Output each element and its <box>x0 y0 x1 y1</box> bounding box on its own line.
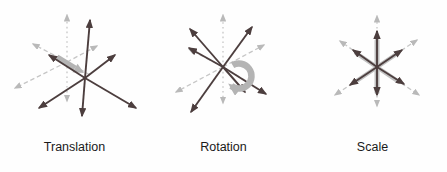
transformed-axes-star <box>189 27 266 112</box>
scale-label: Scale <box>357 140 388 154</box>
translation-figure <box>0 0 149 133</box>
panel-translation: Translation <box>0 0 149 172</box>
rotation-figure <box>149 0 298 133</box>
rotation-label: Rotation <box>200 140 247 154</box>
translation-label: Translation <box>44 140 105 154</box>
panel-rotation: Rotation <box>149 0 298 172</box>
rotation-curved-arrow <box>231 64 251 89</box>
transforms-figure: Translation <box>0 0 447 172</box>
scale-figure <box>298 0 447 133</box>
transformed-axes-star <box>350 31 404 95</box>
panel-scale: Scale <box>298 0 447 172</box>
